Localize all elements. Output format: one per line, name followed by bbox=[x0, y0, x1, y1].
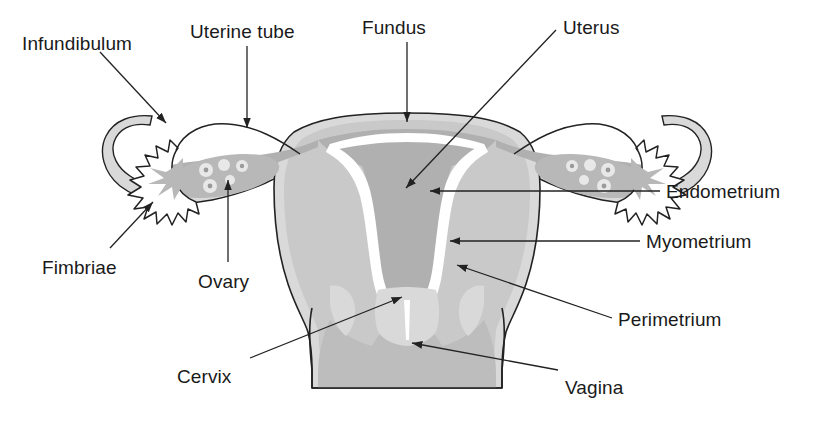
label-uterus: Uterus bbox=[563, 18, 620, 37]
label-cervix: Cervix bbox=[177, 367, 231, 386]
label-endometrium: Endometrium bbox=[666, 182, 780, 201]
leader-fimbriae bbox=[110, 202, 153, 248]
label-perimetrium: Perimetrium bbox=[618, 310, 722, 329]
ovary-left-oocyte-1 bbox=[204, 168, 209, 173]
label-myometrium: Myometrium bbox=[646, 232, 752, 251]
leader-infundibulum bbox=[100, 52, 166, 123]
label-ovary: Ovary bbox=[198, 272, 249, 291]
ovary-right-oocyte-1 bbox=[606, 168, 611, 173]
anatomy-diagram-page: Infundibulum Uterine tube Fundus Uterus … bbox=[0, 0, 818, 432]
ovary-right-follicle-5 bbox=[579, 175, 589, 185]
label-fundus: Fundus bbox=[362, 18, 426, 37]
label-vagina: Vagina bbox=[565, 378, 623, 397]
ovary-right-follicle-2 bbox=[584, 159, 596, 171]
ovary-right-oocyte-3 bbox=[602, 184, 607, 189]
reproductive-tract-diagram bbox=[0, 0, 818, 432]
label-uterine-tube: Uterine tube bbox=[190, 22, 295, 41]
ovary-left-oocyte-3 bbox=[208, 184, 213, 189]
ovary-right-oocyte-2 bbox=[570, 164, 574, 168]
ovary-left-follicle-5 bbox=[225, 175, 235, 185]
ovary-left-oocyte-2 bbox=[240, 164, 244, 168]
ovary-left-follicle-2 bbox=[218, 159, 230, 171]
label-fimbriae: Fimbriae bbox=[42, 258, 117, 277]
cervix-vagina-group bbox=[310, 286, 505, 388]
label-infundibulum: Infundibulum bbox=[22, 34, 132, 53]
fimbriae-left bbox=[128, 140, 201, 225]
